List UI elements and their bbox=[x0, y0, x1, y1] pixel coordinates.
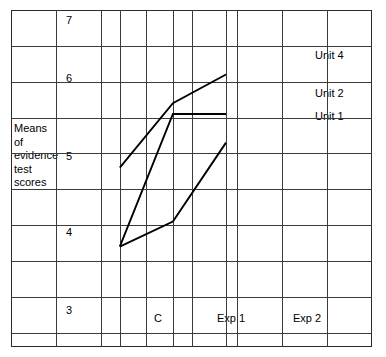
y-tick-label-6: 6 bbox=[46, 73, 72, 84]
series-label-unit-4: Unit 4 bbox=[315, 50, 344, 61]
y-tick-label-4: 4 bbox=[46, 227, 72, 238]
y-tick-label-5: 5 bbox=[46, 151, 72, 162]
y-tick-label-7: 7 bbox=[46, 15, 72, 26]
y-axis-title-line: scores bbox=[14, 176, 74, 190]
y-axis-title-line: test bbox=[14, 163, 74, 177]
x-tick-label-exp-1: Exp 1 bbox=[217, 313, 245, 324]
y-axis-title-line: Means bbox=[14, 122, 74, 136]
series-label-unit-2: Unit 2 bbox=[315, 88, 344, 99]
series-label-unit-1: Unit 1 bbox=[315, 111, 344, 122]
x-tick-label-exp-2: Exp 2 bbox=[293, 313, 321, 324]
y-axis-title-line: of bbox=[14, 136, 74, 150]
y-tick-label-3: 3 bbox=[46, 305, 72, 316]
chart-screenshot: Means of evidence test scores 7 6 5 4 3 … bbox=[0, 0, 386, 357]
x-tick-label-c: C bbox=[154, 313, 162, 324]
